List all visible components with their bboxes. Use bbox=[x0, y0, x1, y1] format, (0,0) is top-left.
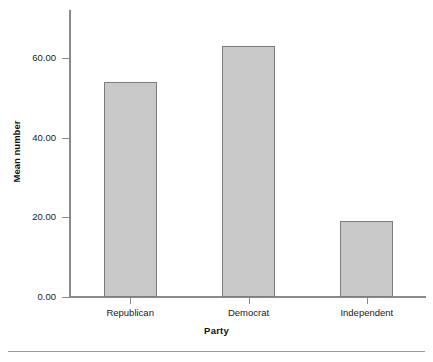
y-axis-tick bbox=[62, 138, 69, 139]
y-axis-tick-label: 60.00 bbox=[32, 53, 56, 63]
x-axis-tick bbox=[130, 298, 131, 304]
y-axis-tick bbox=[62, 217, 69, 218]
bar-independent bbox=[340, 221, 393, 297]
bar-republican bbox=[104, 82, 157, 297]
x-axis-tick-label: Independent bbox=[340, 307, 393, 318]
y-axis-tick-label: 40.00 bbox=[32, 133, 56, 143]
y-axis-tick bbox=[62, 297, 69, 298]
bar-democrat bbox=[222, 46, 275, 297]
bar-chart-figure: 0.0020.0040.0060.00 RepublicanDemocratIn… bbox=[0, 0, 433, 362]
y-axis-tick-label: 0.00 bbox=[38, 292, 57, 302]
x-axis-tick bbox=[367, 298, 368, 304]
y-axis-title: Mean number bbox=[11, 102, 22, 202]
bottom-divider bbox=[8, 351, 425, 352]
y-axis-tick bbox=[62, 58, 69, 59]
x-axis-tick-label: Democrat bbox=[228, 307, 269, 318]
y-axis-tick-label: 20.00 bbox=[32, 212, 56, 222]
x-axis-tick bbox=[249, 298, 250, 304]
y-axis-line bbox=[69, 10, 71, 298]
x-axis-tick-label: Republican bbox=[106, 307, 154, 318]
x-axis-title: Party bbox=[0, 325, 433, 336]
